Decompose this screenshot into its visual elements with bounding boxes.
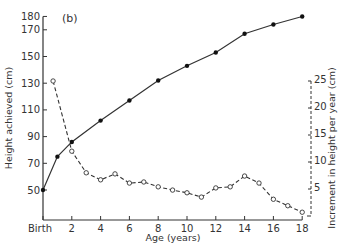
- left-axis-tick-label: 70: [27, 158, 40, 169]
- y-axis-title: Height achieved (cm): [3, 67, 14, 169]
- height-marker: [271, 22, 275, 26]
- height-marker: [55, 154, 59, 158]
- right-axis-tick-label: 15: [314, 128, 327, 139]
- increment-marker: [242, 174, 246, 178]
- growth-chart: 507090110130150170180 510152025 Birth246…: [0, 0, 342, 246]
- x-axis-tick-label: 18: [296, 223, 309, 234]
- series-layer: [41, 14, 305, 214]
- increment-marker: [185, 191, 189, 195]
- right-axis-tick-label: 25: [314, 74, 327, 85]
- increment-marker: [127, 181, 131, 185]
- height-marker: [242, 32, 246, 36]
- height-line: [43, 17, 302, 191]
- right-axis-tick-label: 10: [314, 155, 327, 166]
- increment-marker: [300, 210, 304, 214]
- left-axis-tick-label: 110: [21, 104, 40, 115]
- height-marker: [127, 98, 131, 102]
- increment-marker: [98, 178, 102, 182]
- increment-line: [53, 81, 302, 212]
- height-marker: [41, 188, 45, 192]
- right-y-axis: 510152025: [307, 74, 327, 216]
- increment-series: [51, 79, 305, 215]
- right-axis-tick-label: 5: [314, 182, 320, 193]
- increment-marker: [156, 185, 160, 189]
- height-marker: [300, 14, 304, 18]
- left-axis-tick-label: 180: [21, 11, 40, 22]
- height-marker: [156, 78, 160, 82]
- increment-marker: [228, 185, 232, 189]
- increment-marker: [170, 188, 174, 192]
- y2-axis-title: Increment in height per year (cm): [326, 67, 337, 228]
- x-axis-tick-label: 14: [238, 223, 251, 234]
- increment-marker: [51, 79, 55, 83]
- x-axis-tick-label: 12: [209, 223, 222, 234]
- panel-label: (b): [62, 12, 78, 25]
- x-axis-tick-label: 2: [69, 223, 75, 234]
- increment-marker: [199, 195, 203, 199]
- x-axis-tick-label: 6: [126, 223, 132, 234]
- left-axis-tick-label: 90: [27, 131, 40, 142]
- height-marker: [214, 50, 218, 54]
- height-achieved-series: [41, 14, 305, 192]
- increment-marker: [257, 181, 261, 185]
- height-marker: [98, 118, 102, 122]
- x-axis-tick-label: Birth: [28, 223, 52, 234]
- height-marker: [185, 64, 189, 68]
- increment-marker: [142, 180, 146, 184]
- x-axis-tick-label: 4: [97, 223, 103, 234]
- increment-marker: [271, 197, 275, 201]
- left-axis-tick-label: 150: [21, 51, 40, 62]
- left-axis-tick-label: 170: [21, 24, 40, 35]
- left-axis-tick-label: 130: [21, 78, 40, 89]
- increment-marker: [286, 204, 290, 208]
- increment-marker: [84, 171, 88, 175]
- increment-marker: [214, 186, 218, 190]
- x-axis-title: Age (years): [146, 232, 201, 243]
- increment-marker: [70, 149, 74, 153]
- right-axis-tick-label: 20: [314, 101, 327, 112]
- x-axis-tick-label: 16: [267, 223, 280, 234]
- increment-marker: [113, 172, 117, 176]
- left-axis-tick-label: 50: [27, 185, 40, 196]
- height-marker: [70, 140, 74, 144]
